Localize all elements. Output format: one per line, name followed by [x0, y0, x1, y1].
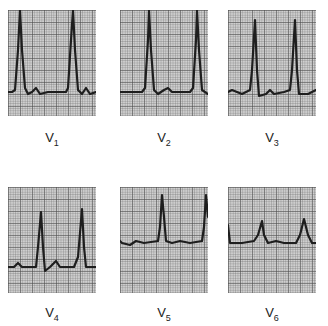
ecg-strip-v6	[228, 187, 316, 293]
ecg-strip-v1	[8, 10, 96, 116]
lead-label: V2	[120, 130, 208, 148]
ecg-trace	[120, 10, 208, 116]
ecg-strip-v4	[8, 187, 96, 293]
lead-label: V4	[8, 305, 96, 323]
ecg-strip-v5	[120, 187, 208, 293]
ecg-trace	[8, 10, 96, 116]
lead-label: V5	[120, 305, 208, 323]
lead-label: V6	[228, 305, 316, 323]
ecg-trace	[8, 187, 96, 293]
ecg-trace	[120, 187, 208, 293]
ecg-strip-v2	[120, 10, 208, 116]
ecg-trace	[228, 10, 316, 116]
lead-label: V3	[228, 130, 316, 148]
ecg-trace	[228, 187, 316, 293]
lead-label: V1	[8, 130, 96, 148]
ecg-strip-v3	[228, 10, 316, 116]
